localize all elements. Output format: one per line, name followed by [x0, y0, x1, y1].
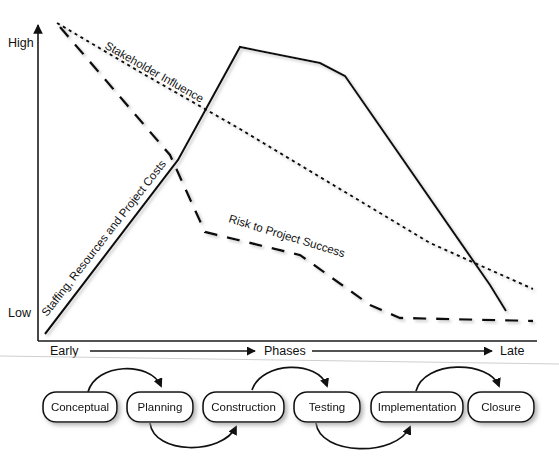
- flow-box-planning-label: Planning: [138, 401, 183, 413]
- flow-box-construction-label: Construction: [211, 401, 276, 413]
- label-stakeholder-influence: Stakeholder Influence: [103, 39, 206, 104]
- flow-box-conceptual-label: Conceptual: [51, 401, 109, 413]
- chart-axes: High Low: [8, 25, 537, 341]
- flow-box-planning[interactable]: Planning: [127, 392, 193, 422]
- flow-box-testing[interactable]: Testing: [294, 392, 360, 422]
- project-lifecycle-figure: High Low Stakeholder Influence Staffing,…: [0, 0, 559, 470]
- flow-box-implementation-label: Implementation: [378, 401, 457, 413]
- flow-arc-construction-to-testing: [252, 367, 327, 390]
- flow-box-construction[interactable]: Construction: [203, 392, 284, 422]
- curve-risk-to-project-success: [60, 27, 533, 321]
- flow-arc-implementation-to-closure: [416, 367, 499, 391]
- x-axis-early-label: Early: [50, 344, 79, 358]
- x-axis-late-label: Late: [500, 344, 524, 358]
- figure-canvas: High Low Stakeholder Influence Staffing,…: [0, 0, 559, 470]
- chart-curve-labels: Stakeholder Influence Staffing, Resource…: [39, 39, 347, 318]
- flow-box-testing-label: Testing: [309, 401, 345, 413]
- flow-box-implementation[interactable]: Implementation: [371, 392, 463, 422]
- y-axis-high-label: High: [8, 36, 34, 50]
- x-axis-phases-label: Phases: [264, 344, 306, 358]
- flow-box-conceptual[interactable]: Conceptual: [43, 392, 117, 422]
- y-axis-low-label: Low: [8, 306, 32, 320]
- flow-arc-testing-to-implementation: [316, 423, 410, 449]
- x-axis-annotation-row: Early Phases Late: [50, 344, 524, 358]
- curve-staffing-costs: [45, 47, 506, 334]
- flow-arc-conceptual-to-planning: [88, 369, 161, 392]
- flow-box-closure[interactable]: Closure: [468, 392, 534, 422]
- flow-arc-planning-to-construction: [150, 423, 236, 448]
- flow-box-closure-label: Closure: [481, 401, 521, 413]
- label-staffing-costs: Staffing, Resources and Project Costs: [39, 158, 168, 319]
- chart-curves: [45, 23, 533, 334]
- flow-boxes: Conceptual Planning Construction Testing…: [43, 392, 534, 422]
- label-risk-to-project-success: Risk to Project Success: [227, 212, 346, 259]
